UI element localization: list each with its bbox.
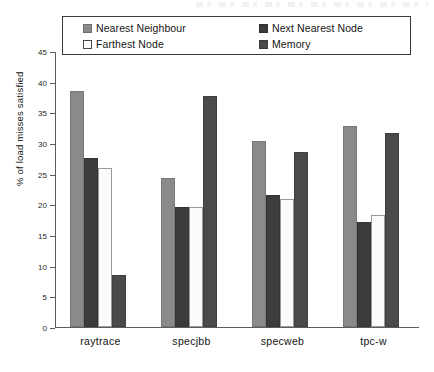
- legend-label: Next Nearest Node: [272, 23, 363, 34]
- bar: [385, 133, 399, 327]
- y-axis-title: % of load misses satisfied: [14, 72, 25, 187]
- legend-entry-nearest-neighbour: Nearest Neighbour: [83, 20, 186, 36]
- y-axis-tick: 0: [50, 328, 55, 329]
- legend-label: Memory: [272, 39, 311, 50]
- bar-group-bars: [252, 52, 308, 327]
- legend-swatch-icon: [259, 40, 268, 49]
- bar-group: raytrace: [55, 52, 146, 327]
- y-axis-tick-label: 40: [38, 78, 47, 87]
- y-axis-tick-label: 10: [38, 262, 47, 271]
- y-axis-tick-label: 15: [38, 232, 47, 241]
- y-axis-tick-label: 35: [38, 109, 47, 118]
- bar: [203, 96, 217, 327]
- bar-group-bars: [70, 52, 126, 327]
- bar-chart-figure: Nearest Neighbour Farthest Node Next Nea…: [0, 0, 434, 372]
- bar: [371, 215, 385, 327]
- legend-swatch-icon: [259, 24, 268, 33]
- bar-group: specweb: [237, 52, 328, 327]
- bar: [161, 178, 175, 327]
- legend-entry-next-nearest-node: Next Nearest Node: [259, 20, 363, 36]
- y-axis-tick-label: 0: [43, 324, 47, 333]
- y-axis-tick-label: 20: [38, 201, 47, 210]
- bar: [70, 91, 84, 327]
- bar: [189, 207, 203, 327]
- plot-area: 051015202530354045 raytracespecjbbspecwe…: [55, 52, 419, 328]
- bar: [266, 195, 280, 327]
- y-axis-tick-label: 45: [38, 48, 47, 57]
- y-axis-tick-label: 5: [43, 293, 47, 302]
- legend-label: Nearest Neighbour: [96, 23, 186, 34]
- bar-group-bars: [161, 52, 217, 327]
- y-axis-tick-label: 30: [38, 140, 47, 149]
- bar: [357, 222, 371, 327]
- x-axis-line: [55, 327, 419, 328]
- scan-artifact: [196, 2, 428, 7]
- legend-column-right: Next Nearest Node Memory: [259, 20, 363, 52]
- bar: [343, 126, 357, 327]
- bar: [84, 158, 98, 327]
- bar: [280, 199, 294, 327]
- bar: [175, 207, 189, 327]
- x-axis-tick-label: tpc-w: [314, 335, 434, 347]
- chart-legend: Nearest Neighbour Farthest Node Next Nea…: [62, 16, 411, 55]
- bar: [294, 152, 308, 327]
- legend-entry-farthest-node: Farthest Node: [83, 36, 186, 52]
- legend-label: Farthest Node: [96, 39, 164, 50]
- bar: [98, 168, 112, 327]
- y-axis-tick-label: 25: [38, 170, 47, 179]
- bar-group: specjbb: [146, 52, 237, 327]
- bar-group-bars: [343, 52, 399, 327]
- bar: [252, 141, 266, 327]
- legend-swatch-icon: [83, 40, 92, 49]
- legend-entry-memory: Memory: [259, 36, 363, 52]
- bar-group: tpc-w: [328, 52, 419, 327]
- bar: [112, 275, 126, 327]
- legend-column-left: Nearest Neighbour Farthest Node: [83, 20, 186, 52]
- legend-swatch-icon: [83, 24, 92, 33]
